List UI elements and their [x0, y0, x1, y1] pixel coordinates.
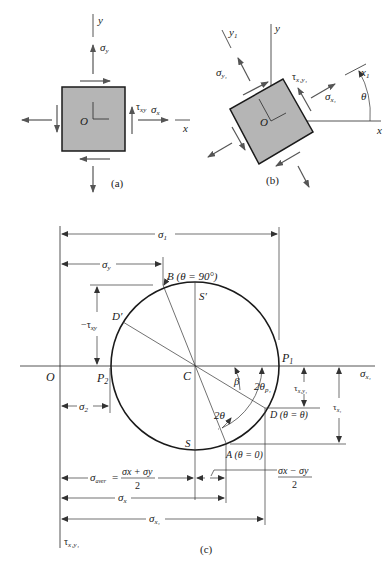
sigma-y1-arrow	[238, 58, 250, 81]
sigma-aver-denominator: 2	[135, 480, 140, 491]
shear-arrow-bottom	[276, 152, 300, 166]
origin-label: O	[80, 115, 88, 127]
panel-a-element: y x O σy τxy σx (a)	[22, 14, 190, 192]
two-theta-label: 2θ	[214, 409, 226, 421]
panel-a-caption: (a)	[111, 177, 124, 190]
panel-b-rotated-element: y x O y1 x1 θ σy₁ τx₁y₁ σx₁ (b)	[208, 22, 382, 187]
A-label: A (θ = 0)	[225, 449, 263, 461]
sigma-x-label: σx	[151, 103, 160, 117]
panel-c-mohrs-circle: σx₁ τx₁y₁ O C P1 P2 S′ S D′ B (θ = 90°) …	[20, 226, 375, 556]
diameter-D-prime-D	[123, 322, 265, 408]
P1-label: P1	[281, 351, 293, 366]
origin-O-label: O	[46, 370, 55, 384]
sigma-x1-axis-label: σx₁	[360, 367, 371, 381]
y-axis-label: y	[97, 14, 103, 26]
y-axis-label: y	[274, 22, 280, 34]
B-label: B (θ = 90°)	[167, 270, 218, 283]
sigma-x-label: σx	[118, 491, 127, 505]
center-C-label: C	[183, 369, 192, 383]
tau-x1y1-label: τx₁y₁	[294, 383, 307, 394]
sigma-y-label: σy	[100, 41, 109, 55]
beta-label: β	[233, 375, 240, 387]
D-label: D (θ = θ)	[269, 409, 309, 421]
sigma1-label: σ1	[158, 228, 167, 242]
neg-tau-xy-label: −τxy	[81, 319, 98, 332]
sigma-y-label: σy	[102, 258, 111, 272]
S-label: S	[185, 437, 191, 449]
half-diff-denominator: 2	[292, 479, 297, 490]
two-theta-p1-arc	[222, 368, 262, 428]
sigma-x1-label: σx₁	[149, 512, 160, 526]
x1-axis-label: x1	[360, 66, 369, 80]
half-diff-leader	[211, 470, 277, 476]
x-axis-label: x	[376, 124, 382, 136]
S-prime-label: S′	[199, 290, 208, 302]
tau-xy-label: τxy	[136, 101, 147, 114]
stress-transformation-figure: y x O σy τxy σx (a) y x O y1 x1	[0, 0, 392, 563]
sigma-y1-label: σy₁	[216, 66, 227, 80]
sigma-x1-arrow-left	[208, 143, 232, 157]
y1-axis-label: y1	[228, 26, 237, 40]
sigma2-label: σ2	[79, 400, 88, 414]
D-prime-label: D′	[111, 310, 123, 322]
two-theta-p1-label: 2θp₁	[254, 380, 271, 394]
panel-b-caption: (b)	[266, 174, 279, 187]
theta-label: θ	[361, 90, 367, 102]
origin-label: O	[260, 116, 268, 128]
sigma-aver-label: σaver	[90, 471, 107, 484]
half-diff-numerator: σx − σy	[278, 465, 309, 476]
sigma-y1-arrow-bottom	[298, 166, 309, 187]
sigma-x1-label: σx₁	[325, 90, 336, 104]
tau-x1y1-label: τx₁y₁	[292, 71, 307, 84]
sigma-aver-numerator: σx + σy	[122, 466, 153, 477]
tau-x1-label: τx₁	[333, 402, 341, 413]
sigma-aver-equals: =	[112, 471, 118, 483]
P2-label: P2	[96, 371, 108, 386]
x-axis-label: x	[182, 122, 188, 134]
tau-x1y1-axis-label: τx₁y₁	[64, 536, 79, 549]
panel-c-caption: (c)	[200, 543, 213, 556]
